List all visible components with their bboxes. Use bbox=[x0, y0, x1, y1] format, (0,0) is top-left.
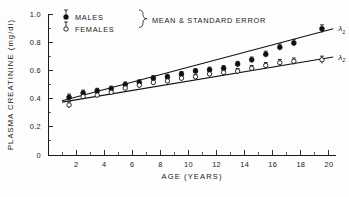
data-point-females bbox=[67, 103, 71, 107]
legend-note: MEAN & STANDARD ERROR bbox=[152, 16, 266, 25]
y-axis-tick-label: 0 bbox=[37, 151, 41, 160]
y-axis-title: PLASMA CREATININE (mg/dl) bbox=[6, 19, 15, 150]
y-axis-tick-label: 0.2 bbox=[30, 122, 41, 131]
data-point-females bbox=[264, 63, 268, 67]
plasma-creatinine-scatter-chart: 00.20.40.60.81.02468101214161820AGE (YEA… bbox=[0, 0, 349, 197]
x-axis-tick-label: 2 bbox=[74, 160, 78, 169]
figure-canvas: 00.20.40.60.81.02468101214161820AGE (YEA… bbox=[0, 0, 349, 197]
x-axis-tick-label: 12 bbox=[212, 160, 221, 169]
legend-brace bbox=[139, 10, 147, 27]
x-axis-tick-label: 10 bbox=[184, 160, 193, 169]
x-axis-tick-label: 14 bbox=[240, 160, 249, 169]
data-point-females bbox=[278, 60, 282, 64]
data-point-males bbox=[67, 95, 72, 100]
data-point-females bbox=[123, 86, 127, 90]
data-point-females bbox=[95, 93, 99, 97]
data-point-males bbox=[277, 45, 282, 50]
data-point-females bbox=[137, 83, 141, 87]
legend-label-females: FEMALES bbox=[75, 25, 114, 34]
data-point-males bbox=[319, 26, 324, 31]
data-point-females bbox=[151, 80, 155, 84]
data-point-females bbox=[207, 72, 211, 76]
x-axis-tick-label: 20 bbox=[325, 160, 334, 169]
data-point-females bbox=[235, 69, 239, 73]
x-axis-tick-label: 18 bbox=[296, 160, 305, 169]
regression-line-2 bbox=[62, 57, 333, 102]
lambda-label-1: λ1 bbox=[337, 24, 345, 34]
legend-marker-females bbox=[64, 27, 68, 31]
legend-label-males: MALES bbox=[75, 13, 104, 22]
data-point-females bbox=[320, 58, 324, 62]
x-axis-tick-label: 16 bbox=[268, 160, 277, 169]
data-point-females bbox=[250, 66, 254, 70]
y-axis-tick-label: 1.0 bbox=[30, 10, 41, 19]
data-point-males bbox=[235, 62, 240, 67]
data-point-females bbox=[292, 59, 296, 63]
x-axis-tick-label: 8 bbox=[158, 160, 162, 169]
data-point-males bbox=[263, 52, 268, 57]
series-females bbox=[62, 56, 333, 108]
y-axis-tick-label: 0.4 bbox=[30, 94, 41, 103]
data-point-females bbox=[81, 94, 85, 98]
data-point-females bbox=[165, 79, 169, 83]
axis-lines bbox=[48, 14, 336, 155]
data-point-males bbox=[249, 57, 254, 62]
x-axis-tick-label: 6 bbox=[130, 160, 134, 169]
data-point-females bbox=[179, 76, 183, 80]
y-axis-tick-label: 0.6 bbox=[30, 66, 41, 75]
data-point-males bbox=[291, 40, 296, 45]
y-axis-tick-label: 0.8 bbox=[30, 38, 41, 47]
data-point-females bbox=[221, 70, 225, 74]
x-axis-title: AGE (YEARS) bbox=[161, 172, 222, 181]
data-point-males bbox=[193, 69, 198, 74]
data-point-females bbox=[109, 90, 113, 94]
data-point-females bbox=[193, 75, 197, 79]
legend-marker-males bbox=[64, 15, 69, 20]
lambda-label-2: λ2 bbox=[337, 53, 346, 63]
x-axis-tick-label: 4 bbox=[102, 160, 106, 169]
